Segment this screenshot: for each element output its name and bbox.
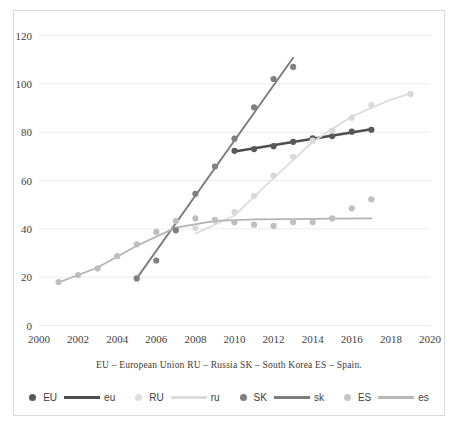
x-tick-label: 2002 xyxy=(67,333,89,345)
data-point-ES xyxy=(349,205,355,211)
data-point-ES xyxy=(192,215,198,221)
data-point-RU xyxy=(290,154,296,160)
data-point-SK xyxy=(134,275,140,281)
data-point-ES xyxy=(231,219,237,225)
x-tick-label: 2010 xyxy=(224,333,247,345)
gridlines xyxy=(39,36,430,326)
legend-entry-eu[interactable]: EUeu xyxy=(29,392,135,403)
legend-line-icon xyxy=(171,396,207,398)
data-point-ES xyxy=(310,219,316,225)
x-tick-label: 2020 xyxy=(419,333,442,345)
y-tick-label: 20 xyxy=(21,271,33,283)
data-point-EU xyxy=(368,127,374,133)
data-point-RU xyxy=(407,91,413,97)
x-tick-label: 2018 xyxy=(380,333,403,345)
legend-marker-icon xyxy=(29,394,36,401)
data-point-EU xyxy=(231,148,237,154)
data-point-ES xyxy=(251,222,257,228)
data-point-EU xyxy=(349,129,355,135)
data-point-RU xyxy=(271,173,277,179)
data-point-ES xyxy=(173,218,179,224)
data-point-EU xyxy=(271,143,277,149)
legend-marker-label: ES xyxy=(358,392,371,403)
data-point-SK xyxy=(153,257,159,263)
data-point-ES xyxy=(368,196,374,202)
data-point-ES xyxy=(153,229,159,235)
legend-marker-icon xyxy=(135,394,142,401)
data-point-ES xyxy=(75,272,81,278)
legend-line-icon xyxy=(274,396,310,398)
data-series-layer xyxy=(55,58,413,285)
y-tick-label: 40 xyxy=(21,223,33,235)
data-point-EU xyxy=(251,146,257,152)
legend-marker-label: EU xyxy=(43,392,57,403)
data-point-RU xyxy=(310,138,316,144)
data-point-EU xyxy=(290,139,296,145)
data-point-ES xyxy=(212,217,218,223)
legend-entry-sk[interactable]: SKsk xyxy=(240,392,344,403)
x-axis-tick-labels: 2000200220042006200820102012201420162018… xyxy=(28,333,442,345)
chart-caption: EU – European Union RU – Russia SK – Sou… xyxy=(13,360,445,370)
chart-legend: EUeuRUruSKskESes xyxy=(13,392,445,403)
legend-marker-label: SK xyxy=(254,392,267,403)
legend-entry-ru[interactable]: RUru xyxy=(135,392,239,403)
data-point-ES xyxy=(134,241,140,247)
data-point-SK xyxy=(251,104,257,110)
data-point-SK xyxy=(231,136,237,142)
data-point-RU xyxy=(349,115,355,121)
x-tick-label: 2004 xyxy=(106,333,129,345)
data-point-SK xyxy=(173,227,179,233)
data-point-SK xyxy=(192,191,198,197)
legend-line-label: eu xyxy=(104,392,115,403)
data-point-RU xyxy=(368,102,374,108)
x-tick-label: 2014 xyxy=(302,333,325,345)
y-axis-tick-labels: 020406080100120 xyxy=(16,30,33,332)
data-point-SK xyxy=(290,64,296,70)
data-point-RU xyxy=(251,193,257,199)
legend-line-label: ru xyxy=(211,392,220,403)
x-tick-label: 2016 xyxy=(341,333,364,345)
legend-line-label: es xyxy=(418,392,429,403)
y-tick-label: 60 xyxy=(21,175,33,187)
legend-marker-icon xyxy=(240,394,247,401)
x-tick-label: 2000 xyxy=(28,333,51,345)
legend-marker-icon xyxy=(344,394,351,401)
y-tick-label: 100 xyxy=(16,78,33,90)
data-point-RU xyxy=(329,128,335,134)
x-tick-label: 2008 xyxy=(184,333,207,345)
trend-line-es xyxy=(59,218,372,282)
trend-line-ru xyxy=(195,94,410,234)
data-point-RU xyxy=(231,209,237,215)
y-tick-label: 0 xyxy=(27,320,33,332)
legend-line-icon xyxy=(64,396,100,398)
legend-entry-es[interactable]: ESes xyxy=(344,392,429,403)
legend-marker-label: RU xyxy=(149,392,163,403)
data-point-ES xyxy=(95,265,101,271)
y-tick-label: 80 xyxy=(21,126,33,138)
data-point-SK xyxy=(271,76,277,82)
data-point-ES xyxy=(271,223,277,229)
data-point-ES xyxy=(329,215,335,221)
data-point-ES xyxy=(114,253,120,259)
data-point-EU xyxy=(329,133,335,139)
x-tick-label: 2006 xyxy=(145,333,168,345)
data-point-RU xyxy=(192,225,198,231)
legend-line-icon xyxy=(378,396,414,398)
y-tick-label: 120 xyxy=(16,30,33,42)
x-tick-label: 2012 xyxy=(263,333,285,345)
data-point-SK xyxy=(212,163,218,169)
legend-line-label: sk xyxy=(314,392,324,403)
data-point-ES xyxy=(290,219,296,225)
data-point-ES xyxy=(55,279,61,285)
